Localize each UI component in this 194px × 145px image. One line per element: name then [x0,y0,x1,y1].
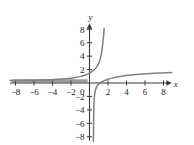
y-tick-label: −6 [75,119,85,129]
y-tick-label: 2 [80,65,85,75]
x-tick-labels: −8−6−4−22468 [11,87,167,97]
origin-label: 0 [80,87,85,97]
y-tick-label: 8 [80,25,85,35]
y-tick-label: 4 [80,51,85,61]
x-tick-label: 2 [106,87,111,97]
x-tick-label: 6 [143,87,148,97]
y-tick-label: −4 [75,105,85,115]
x-tick-label: −8 [11,87,21,97]
x-tick-label: −6 [29,87,39,97]
x-tick-label: 4 [124,87,129,97]
y-tick-label: 6 [80,38,85,48]
y-axis-label: y [88,12,93,22]
y-tick-label: −8 [75,132,85,142]
x-tick-label: −4 [48,87,58,97]
x-tick-label: 8 [161,87,166,97]
x-axis [10,80,172,86]
x-axis-label: x [173,79,178,89]
graph-figure: −8−6−4−22468 −8−6−4−22468 0 x y [0,0,194,145]
coordinate-plane: −8−6−4−22468 −8−6−4−22468 0 x y [0,0,194,145]
